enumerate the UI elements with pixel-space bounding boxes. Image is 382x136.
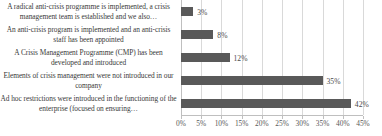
x-axis-tick-label: 15% bbox=[235, 119, 249, 128]
bar bbox=[181, 99, 351, 108]
plot-area: 3% 8% 12% 35% 42% bbox=[181, 0, 363, 115]
category-axis-tick-label: Elements of crisis management were not i… bbox=[0, 71, 177, 90]
x-axis-tick-label: 25% bbox=[275, 119, 289, 128]
bar bbox=[181, 30, 213, 39]
x-axis-tick-label: 5% bbox=[196, 119, 206, 128]
gridline bbox=[363, 0, 364, 115]
x-axis-tick-label: 35% bbox=[316, 119, 330, 128]
category-axis-tick-label: An anti-crisis program is implemented an… bbox=[0, 25, 177, 44]
category-label-cell: A radical anti-crisis programme is imple… bbox=[0, 0, 179, 23]
x-axis-tick-labels: 0%5%10%15%20%25%30%35%40%45% bbox=[181, 116, 363, 136]
bar bbox=[181, 76, 323, 85]
bar bbox=[181, 7, 193, 16]
bar-value-label: 42% bbox=[355, 100, 369, 109]
category-axis-tick-label: A radical anti-crisis programme is imple… bbox=[0, 2, 177, 21]
bar-row: 35% bbox=[181, 69, 363, 92]
x-axis-tick-label: 40% bbox=[336, 119, 350, 128]
category-axis-labels: A radical anti-crisis programme is imple… bbox=[0, 0, 179, 115]
category-axis-tick-label: Ad hoc restrictions were introduced in t… bbox=[0, 94, 177, 113]
bar-value-label: 3% bbox=[197, 8, 207, 17]
category-label-cell: A Crisis Management Programme (CMP) has … bbox=[0, 46, 179, 69]
category-label-cell: Ad hoc restrictions were introduced in t… bbox=[0, 92, 179, 115]
bar-value-label: 8% bbox=[217, 31, 227, 40]
category-label-cell: An anti-crisis program is implemented an… bbox=[0, 23, 179, 46]
bar-row: 8% bbox=[181, 23, 363, 46]
x-axis-tick-label: 10% bbox=[215, 119, 229, 128]
bar-row: 3% bbox=[181, 0, 363, 23]
x-axis-tick-label: 45% bbox=[356, 119, 370, 128]
category-label-cell: Elements of crisis management were not i… bbox=[0, 69, 179, 92]
x-axis-tick-label: 0% bbox=[176, 119, 186, 128]
bar-series: 3% 8% 12% 35% 42% bbox=[181, 0, 363, 115]
category-axis-tick-label: A Crisis Management Programme (CMP) has … bbox=[0, 48, 177, 67]
x-axis-tick-label: 30% bbox=[296, 119, 310, 128]
bar-row: 12% bbox=[181, 46, 363, 69]
horizontal-bar-chart: A radical anti-crisis programme is imple… bbox=[0, 0, 382, 136]
bar bbox=[181, 53, 230, 62]
x-axis-tick-label: 20% bbox=[255, 119, 269, 128]
bar-value-label: 12% bbox=[234, 54, 248, 63]
bar-row: 42% bbox=[181, 92, 363, 115]
bar-value-label: 35% bbox=[327, 77, 341, 86]
